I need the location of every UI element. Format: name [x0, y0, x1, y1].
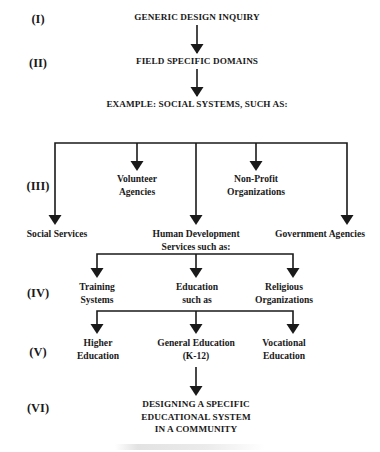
- node-religious-organizations: Religious Organizations: [255, 281, 313, 306]
- node-social-services: Social Services: [27, 228, 87, 241]
- level5-bus: [97, 311, 293, 326]
- level-label-iv: (IV): [18, 286, 58, 301]
- figure-caption-cropped: [115, 444, 265, 450]
- node-generic-design-inquiry: GENERIC DESIGN INQUIRY: [134, 11, 259, 24]
- level-label-i: (I): [18, 12, 58, 27]
- level-label-iii: (III): [18, 179, 58, 194]
- node-higher-education: Higher Education: [77, 337, 119, 362]
- node-field-specific-domains: FIELD SPECIFIC DOMAINS: [136, 55, 258, 68]
- level-label-v: (V): [18, 345, 58, 360]
- level-label-vi: (VI): [18, 401, 58, 416]
- level4-bus: [97, 254, 293, 270]
- node-human-development-services: Human Development Services such as:: [152, 228, 239, 253]
- node-example-social-systems: EXAMPLE: SOCIAL SYSTEMS, SUCH AS:: [106, 98, 287, 111]
- level3-bus: [55, 143, 347, 218]
- level-label-ii: (II): [18, 56, 58, 71]
- node-vocational-education: Vocational Education: [262, 337, 305, 362]
- node-designing-educational-system: DESIGNING A SPECIFIC EDUCATIONAL SYSTEM …: [141, 398, 251, 436]
- node-training-systems: Training Systems: [79, 281, 115, 306]
- node-general-education: General Education (K-12): [157, 337, 235, 362]
- node-education: Education such as: [176, 281, 218, 306]
- node-government-agencies: Government Agencies: [275, 228, 365, 241]
- node-non-profit-organizations: Non-Profit Organizations: [227, 173, 285, 198]
- node-volunteer-agencies: Volunteer Agencies: [117, 173, 157, 198]
